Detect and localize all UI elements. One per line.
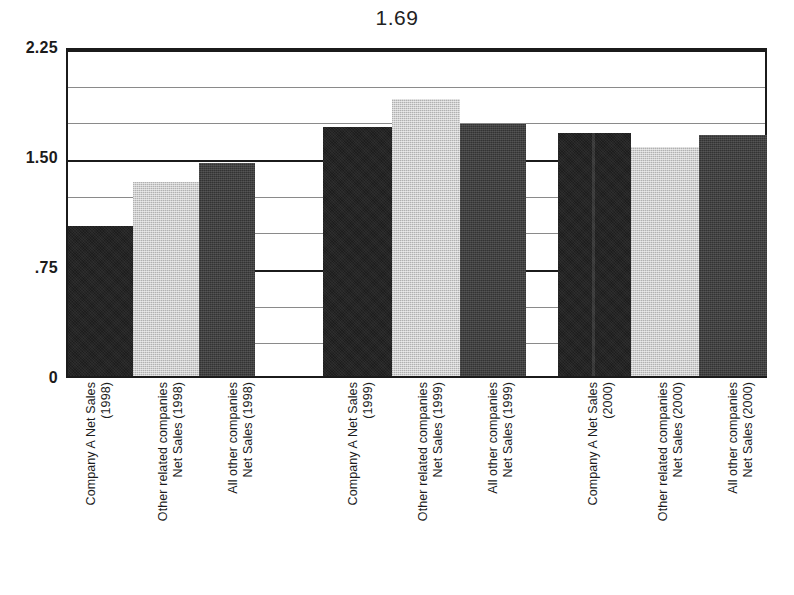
- x-axis-label: Other related companies Net Sales (2000): [656, 382, 686, 582]
- x-axis-labels: Company A Net Sales (1998)Other related …: [66, 382, 767, 592]
- bar-chart: 1.69 0.751.502.25 Company A Net Sales (1…: [0, 0, 794, 595]
- x-axis-label: All other companies Net Sales (1999): [486, 382, 516, 582]
- x-axis-label: Other related companies Net Sales (1999): [416, 382, 446, 582]
- x-axis-label: Company A Net Sales (2000): [586, 382, 616, 582]
- bar[interactable]: [460, 124, 526, 376]
- x-axis-label: All other companies Net Sales (1998): [226, 382, 256, 582]
- bar[interactable]: [631, 147, 699, 376]
- bar[interactable]: [133, 182, 199, 376]
- bar[interactable]: [68, 226, 133, 376]
- y-axis-tick-label: 1.50: [0, 149, 58, 167]
- bar[interactable]: [699, 135, 767, 376]
- y-axis-tick-label: 2.25: [0, 39, 58, 57]
- bars-layer: [68, 50, 765, 376]
- bar[interactable]: [392, 99, 460, 376]
- y-axis-tick-label: .75: [0, 259, 58, 277]
- x-axis-label: Company A Net Sales (1999): [346, 382, 376, 582]
- x-axis-label: All other companies Net Sales (2000): [726, 382, 756, 582]
- bar[interactable]: [558, 133, 631, 376]
- x-axis-label: Other related companies Net Sales (1998): [156, 382, 186, 582]
- x-axis-label: Company A Net Sales (1998): [84, 382, 114, 582]
- bar[interactable]: [323, 127, 392, 376]
- y-axis-tick-label: 0: [0, 369, 58, 387]
- plot-area: [66, 48, 767, 378]
- chart-title: 1.69: [0, 6, 794, 30]
- bar[interactable]: [199, 163, 255, 376]
